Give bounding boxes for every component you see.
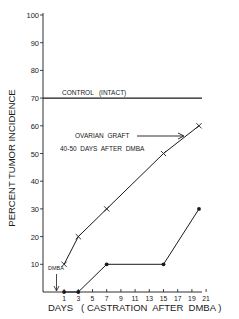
- series-line: [64, 209, 199, 292]
- dot-marker-icon: [162, 262, 166, 266]
- dot-marker-icon: [105, 262, 109, 266]
- y-axis: 102030405060708090100: [26, 11, 43, 292]
- x-axis-label: DAYS ( CASTRATION AFTER DMBA ): [48, 302, 221, 313]
- x-tick-label: 3: [76, 295, 80, 302]
- y-axis-label: PERCENT TUMOR INCIDENCE: [6, 89, 17, 226]
- x-tick-label: 19: [188, 295, 196, 302]
- control-label: CONTROL (INTACT): [62, 89, 126, 97]
- tumor-incidence-chart: 102030405060708090100 13579111315171921 …: [0, 0, 239, 319]
- dot-marker-icon: [76, 290, 80, 294]
- x-tick-label: 5: [91, 295, 95, 302]
- y-tick-label: 100: [26, 11, 39, 20]
- y-tick-label: 30: [31, 205, 39, 214]
- graft-label-line1: OVARIAN GRAFT: [75, 132, 129, 139]
- y-tick-label: 50: [31, 150, 39, 159]
- y-tick-label: 70: [31, 94, 39, 103]
- dmba-label: DMBA: [48, 265, 64, 271]
- y-tick-label: 90: [31, 39, 39, 48]
- y-tick-label: 40: [31, 177, 39, 186]
- x-marker-icon: [161, 151, 166, 156]
- y-tick-label: 80: [31, 66, 39, 75]
- x-tick-label: 13: [146, 295, 154, 302]
- y-tick-label: 60: [31, 122, 39, 131]
- x-tick-label: 9: [119, 295, 123, 302]
- x-marker-icon: [104, 206, 109, 211]
- y-tick-label: 10: [31, 260, 39, 269]
- y-tick-label: 20: [31, 233, 39, 242]
- x-tick-label: 17: [174, 295, 182, 302]
- x-marker-icon: [196, 123, 201, 128]
- x-tick-label: 15: [160, 295, 168, 302]
- x-tick-label: 7: [105, 295, 109, 302]
- x-tick-label: 21: [202, 295, 210, 302]
- x-tick-label: 11: [132, 295, 139, 302]
- dot-marker-icon: [62, 290, 66, 294]
- x-axis: 13579111315171921: [43, 289, 210, 302]
- x-marker-icon: [76, 234, 81, 239]
- dot-marker-icon: [197, 207, 201, 211]
- graft-label-line2: 40-50 DAYS AFTER DMBA: [60, 145, 145, 152]
- x-tick-label: 1: [62, 295, 66, 302]
